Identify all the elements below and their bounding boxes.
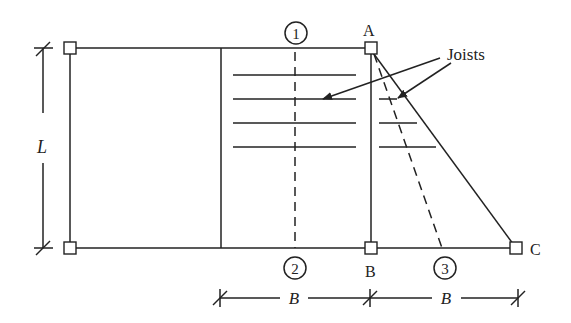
column-square-c: [510, 242, 522, 254]
diagonal-girder-ac: [371, 50, 516, 248]
gridline-3-label: 3: [441, 261, 449, 277]
joists-label: Joists: [447, 45, 485, 64]
point-b-label: B: [365, 263, 376, 280]
column-square: [64, 242, 76, 254]
dimension-l-label: L: [36, 137, 47, 157]
point-c-label: C: [530, 241, 541, 258]
joists-leader-arrow: [398, 63, 451, 98]
dimension-b-label-2: B: [441, 289, 452, 308]
column-square: [64, 42, 76, 54]
gridline-3: [374, 54, 442, 248]
gridline-2-label: 2: [291, 261, 299, 277]
column-square-b: [365, 242, 377, 254]
gridline-1-label: 1: [292, 26, 300, 42]
framing-plan-diagram: Joists A B C 1 2 3 L B B: [0, 0, 571, 323]
point-a-label: A: [363, 22, 375, 39]
dimension-b-label-1: B: [289, 289, 300, 308]
column-square-a: [365, 42, 377, 54]
